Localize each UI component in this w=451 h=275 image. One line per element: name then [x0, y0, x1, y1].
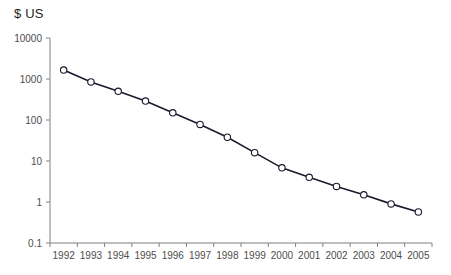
x-tick-label: 2004: [380, 250, 403, 261]
chart-container: $ US 1000010001001010.1 1992199319941995…: [0, 0, 451, 275]
data-point-marker: [361, 192, 367, 198]
x-tick-label: 2000: [271, 250, 294, 261]
x-tick-label: 1999: [244, 250, 267, 261]
data-point-marker: [88, 79, 94, 85]
chart-svg: 1000010001001010.1 199219931994199519961…: [0, 0, 451, 275]
y-tick-label: 10000: [14, 33, 42, 44]
x-tick-label: 2002: [325, 250, 348, 261]
y-axis-ticks: 1000010001001010.1: [14, 33, 50, 249]
x-axis-ticks: 1992199319941995199619971998199920002001…: [50, 243, 432, 261]
x-tick-label: 1996: [162, 250, 185, 261]
data-point-marker: [170, 110, 176, 116]
x-tick-label: 2003: [353, 250, 376, 261]
x-tick-label: 1995: [134, 250, 157, 261]
data-point-marker: [197, 121, 203, 127]
x-tick-label: 2001: [298, 250, 321, 261]
data-point-marker: [60, 67, 66, 73]
data-point-marker: [279, 165, 285, 171]
data-point-marker: [142, 98, 148, 104]
x-tick-label: 1998: [216, 250, 239, 261]
data-point-markers: [60, 67, 421, 215]
y-tick-label: 1000: [20, 74, 43, 85]
x-tick-label: 2005: [407, 250, 430, 261]
data-point-marker: [224, 134, 230, 140]
data-point-marker: [388, 201, 394, 207]
y-tick-label: 10: [31, 156, 43, 167]
x-tick-label: 1997: [189, 250, 212, 261]
data-point-marker: [415, 209, 421, 215]
data-point-marker: [115, 88, 121, 94]
x-axis-group: 1992199319941995199619971998199920002001…: [50, 243, 432, 261]
y-tick-label: 100: [25, 115, 42, 126]
x-tick-label: 1994: [107, 250, 130, 261]
data-point-marker: [306, 174, 312, 180]
y-axis-group: 1000010001001010.1: [14, 33, 50, 249]
y-tick-label: 1: [36, 197, 42, 208]
x-tick-label: 1993: [80, 250, 103, 261]
data-point-marker: [251, 149, 257, 155]
y-tick-label: 0.1: [28, 238, 42, 249]
x-tick-label: 1992: [53, 250, 76, 261]
data-point-marker: [333, 183, 339, 189]
